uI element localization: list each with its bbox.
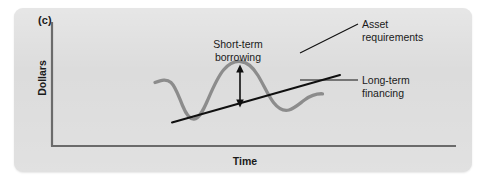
annotation-asset-requirements: Asset requirements [362,18,423,44]
arrow-head-up [236,65,244,73]
short-term-borrowing-arrow [236,65,244,108]
y-axis-title: Dollars [36,35,48,121]
figure-root: (c) Dollars Time Sho [0,0,486,179]
annotation-short-term-borrowing: Short-term borrowing [196,38,280,64]
asset-requirements-leader [300,24,358,53]
annotation-long-term-financing: Long-term financing [362,74,410,100]
annotation-short-term-line1: Short-term [213,38,263,50]
annotation-long-term-line2: financing [362,87,410,100]
annotation-long-term-line1: Long-term [362,74,410,86]
annotation-asset-line1: Asset [362,18,388,30]
annotation-asset-line2: requirements [362,31,423,44]
long-term-financing-line [172,75,340,123]
annotation-short-term-line2: borrowing [196,51,280,64]
series-long-term-financing [172,75,340,123]
x-axis-title: Time [205,155,285,167]
asset-leader-line [300,24,358,53]
